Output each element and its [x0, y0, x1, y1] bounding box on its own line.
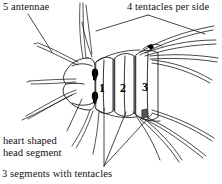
- label-heart-shaped-head-segment: heart shaped head segment: [3, 135, 62, 158]
- label-5-antennae: 5 antennae: [3, 1, 49, 13]
- segment-number-3: 3: [142, 80, 148, 95]
- appendage-lower-left-2: [93, 112, 99, 154]
- label-head-segment-line1: heart shaped: [3, 135, 57, 146]
- tentacle-ur-3: [150, 55, 218, 58]
- label-head-segment-line2: head segment: [3, 147, 62, 158]
- antenna-left-upper: [38, 43, 78, 62]
- eye-spot-lower: [92, 91, 98, 100]
- body-segments: [96, 50, 158, 120]
- antenna-dorsal-2: [86, 5, 92, 54]
- appendage-lower-left-1b: [76, 111, 93, 148]
- tentacle-lr-1b: [148, 121, 203, 158]
- antenna-dorsal-1: [80, 3, 83, 58]
- tentacle-lr-2: [143, 118, 182, 160]
- antenna-left-lower: [26, 90, 76, 116]
- antenna-left-lower-2: [22, 95, 72, 120]
- tentacle-lr-1: [148, 118, 206, 156]
- figure-container: 5 antennae 4 tentacles per side heart sh…: [0, 0, 222, 184]
- head-inner-contour-lower: [72, 103, 93, 105]
- antenna-left-upper-b: [37, 46, 78, 65]
- leader-segments-right: [104, 114, 152, 166]
- tentacle-lr-2b: [140, 119, 179, 162]
- leader-antennae: [28, 14, 52, 52]
- antenna-tip-mid: [27, 81, 30, 82]
- leader-segments-mid: [104, 112, 126, 166]
- head-cleft: [66, 83, 84, 84]
- leader-tentacles-top-left: [96, 15, 148, 31]
- label-4-tentacles-per-side: 4 tentacles per side: [127, 1, 209, 13]
- label-3-segments-with-tentacles: 3 segments with tentacles: [2, 168, 112, 180]
- tentacles-lower-right: [133, 109, 214, 162]
- tentacle-base-node-lower: [142, 109, 148, 118]
- leader-tentacles-top-right: [148, 15, 205, 34]
- antenna-tip-upper: [34, 43, 37, 44]
- tentacles-upper-right: [140, 26, 218, 83]
- tentacle-lr-4b: [152, 113, 212, 141]
- tentacle-ur-2: [145, 40, 216, 53]
- tentacle-ur-2b: [145, 44, 216, 56]
- antenna-left-mid: [30, 79, 76, 81]
- eye-spot-upper: [92, 68, 98, 77]
- segment-number-1: 1: [99, 81, 105, 96]
- tentacle-ur-3b: [150, 58, 217, 62]
- segment-number-2: 2: [120, 81, 126, 96]
- heart-shaped-head: [63, 58, 95, 110]
